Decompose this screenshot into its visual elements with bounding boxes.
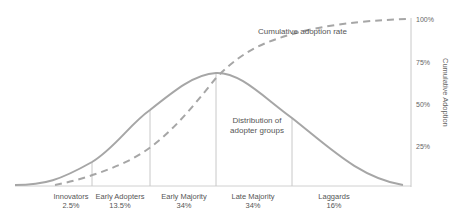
- group-early-adopters: Early Adopters 13.5%: [96, 192, 145, 210]
- group-early-majority: Early Majority 34%: [161, 192, 206, 210]
- tick-50: 50%: [416, 101, 430, 108]
- group-name: Innovators: [53, 192, 88, 201]
- group-name: Laggards: [318, 192, 349, 201]
- group-share: 34%: [161, 201, 206, 210]
- distribution-label-line1: Distribution of: [222, 116, 292, 126]
- tick-100: 100%: [416, 16, 434, 23]
- group-laggards: Laggards 16%: [318, 192, 349, 210]
- distribution-curve: [15, 73, 403, 185]
- group-name: Early Adopters: [96, 192, 145, 201]
- cumulative-label: Cumulative adoption rate: [258, 27, 347, 37]
- cumulative-curve: [55, 19, 408, 185]
- group-name: Late Majority: [232, 192, 275, 201]
- y-axis-title: Cumulative Adoption: [441, 58, 450, 127]
- group-share: 13.5%: [96, 201, 145, 210]
- group-name: Early Majority: [161, 192, 206, 201]
- distribution-label: Distribution of adopter groups: [222, 116, 292, 136]
- group-share: 16%: [318, 201, 349, 210]
- tick-25: 25%: [416, 143, 430, 150]
- adoption-chart: [0, 0, 458, 216]
- tick-75: 75%: [416, 59, 430, 66]
- group-innovators: Innovators 2.5%: [53, 192, 88, 210]
- group-share: 2.5%: [53, 201, 88, 210]
- distribution-label-line2: adopter groups: [222, 126, 292, 136]
- group-late-majority: Late Majority 34%: [232, 192, 275, 210]
- group-share: 34%: [232, 201, 275, 210]
